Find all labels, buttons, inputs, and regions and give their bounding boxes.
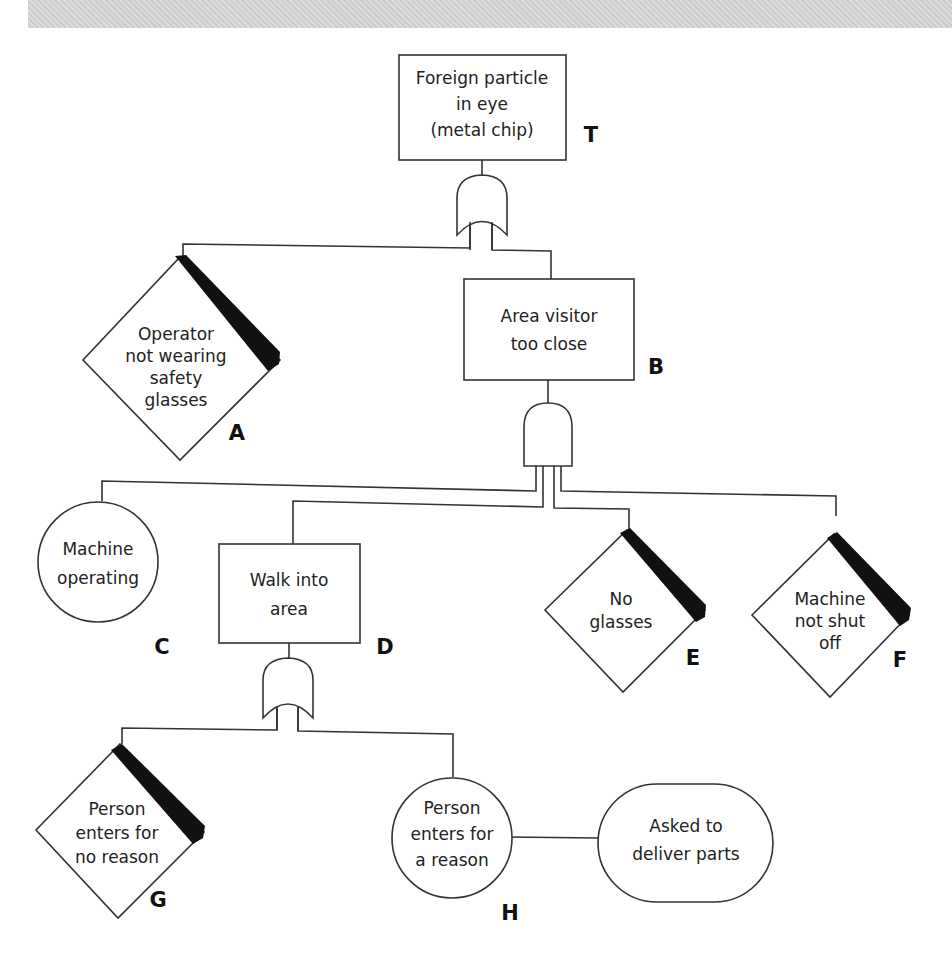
node-A[interactable]: Operator not wearing safety glasses A xyxy=(83,255,280,460)
fault-tree-diagram: Foreign particle in eye (metal chip) T O… xyxy=(0,0,952,963)
node-F-id: F xyxy=(893,648,907,672)
node-F-line-3: off xyxy=(819,633,842,653)
node-A-line-2: not wearing xyxy=(125,346,226,366)
node-C-line-2: operating xyxy=(57,568,139,588)
node-C-line-1: Machine xyxy=(62,539,133,559)
or-gate-icon xyxy=(263,658,313,718)
intermediate-event-box xyxy=(464,279,634,380)
node-E-line-1: No xyxy=(609,589,632,609)
node-A-line-3: safety xyxy=(150,368,202,388)
condition-line-2: deliver parts xyxy=(632,844,739,864)
node-H-id: H xyxy=(501,901,519,925)
node-H-line-3: a reason xyxy=(415,850,488,870)
node-C-id: C xyxy=(154,635,169,659)
node-T-line-3: (metal chip) xyxy=(430,120,533,140)
node-F-line-2: not shut xyxy=(795,611,866,631)
node-G-id: G xyxy=(149,888,166,912)
node-B-line-1: Area visitor xyxy=(501,306,598,326)
node-F[interactable]: Machine not shut off F xyxy=(752,532,911,697)
node-D-line-1: Walk into xyxy=(250,570,329,590)
node-H-line-2: enters for xyxy=(411,824,494,844)
condition-line-1: Asked to xyxy=(649,816,722,836)
or-gate-icon xyxy=(457,175,507,235)
node-G-line-2: enters for xyxy=(76,823,159,843)
intermediate-event-box xyxy=(219,544,360,643)
node-G[interactable]: Person enters for no reason G xyxy=(36,744,205,918)
node-D-line-2: area xyxy=(270,599,308,619)
node-A-id: A xyxy=(229,421,246,445)
node-B[interactable]: Area visitor too close B xyxy=(464,279,664,380)
node-D[interactable]: Walk into area D xyxy=(219,544,394,659)
node-T-id: T xyxy=(584,123,599,147)
connector-lines xyxy=(102,160,836,838)
conditioning-event-oval xyxy=(598,784,773,902)
node-T-line-2: in eye xyxy=(456,94,508,114)
node-H[interactable]: Person enters for a reason H xyxy=(392,778,519,925)
node-F-line-1: Machine xyxy=(794,589,865,609)
node-E-line-2: glasses xyxy=(590,612,653,632)
and-gate-icon xyxy=(524,403,572,466)
node-T-line-1: Foreign particle xyxy=(416,68,548,88)
node-A-line-4: glasses xyxy=(145,390,208,410)
node-B-line-2: too close xyxy=(511,334,588,354)
node-H-condition[interactable]: Asked to deliver parts xyxy=(598,784,773,902)
node-E-id: E xyxy=(686,646,700,670)
node-C[interactable]: Machine operating C xyxy=(38,502,170,659)
undeveloped-event-diamond xyxy=(545,530,705,692)
node-A-line-1: Operator xyxy=(138,324,214,344)
node-B-id: B xyxy=(648,355,664,379)
basic-event-circle xyxy=(38,502,158,622)
node-D-id: D xyxy=(376,635,393,659)
node-H-line-1: Person xyxy=(423,798,480,818)
node-T[interactable]: Foreign particle in eye (metal chip) T xyxy=(399,55,599,160)
node-G-line-3: no reason xyxy=(75,847,159,867)
node-G-line-1: Person xyxy=(88,799,145,819)
node-E[interactable]: No glasses E xyxy=(545,528,706,692)
